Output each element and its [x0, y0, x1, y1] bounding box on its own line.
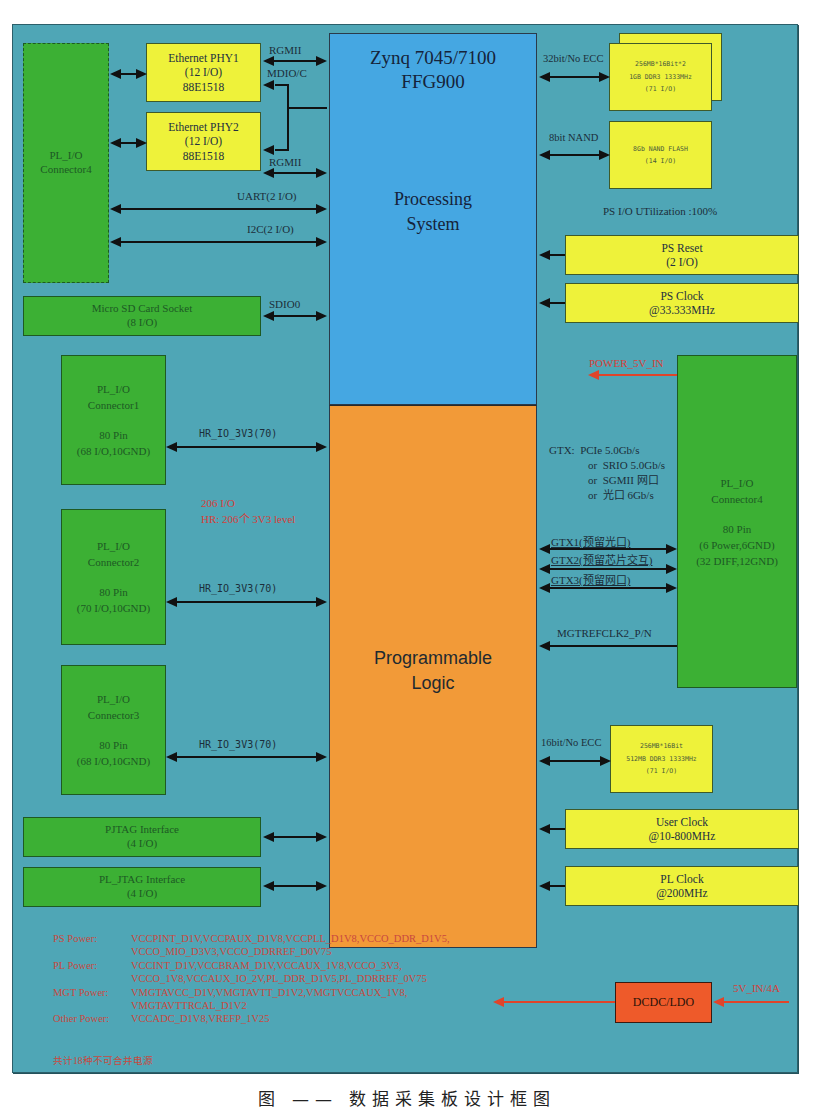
- pl-io-connector2: PL_I/O Connector2 80 Pin (70 I/O,10GND): [61, 509, 166, 645]
- mgtrefclk-label: MGTREFCLK2_P/N: [557, 627, 652, 639]
- arrow-left-icon: [539, 298, 550, 308]
- arrow-left-icon: [539, 881, 550, 891]
- connector-label: PL_I/O: [97, 381, 130, 397]
- arrow-left-icon: [166, 597, 177, 607]
- ddr-spec: 256MB*16Bit*2: [635, 58, 686, 70]
- connector-label: Connector1: [88, 397, 139, 413]
- clock-name: User Clock: [656, 815, 708, 829]
- arrow-left-icon: [539, 824, 550, 834]
- connector-pins: (6 Power,6GND): [699, 537, 774, 553]
- connector2-line: [176, 601, 321, 603]
- uart-line: [119, 208, 319, 210]
- connector-label: PL_I/O: [721, 475, 754, 491]
- arrow-left-icon: [713, 997, 724, 1007]
- phy-io: (12 I/O): [185, 134, 222, 148]
- ps-label: System: [330, 212, 536, 237]
- connector-pins: (32 DIFF,12GND): [696, 553, 778, 569]
- arrow-left-icon: [263, 311, 274, 321]
- gtx-option: or SGMII 网口: [549, 473, 665, 488]
- clock-freq: @200MHz: [656, 886, 707, 900]
- ddr-io: (71 I/O): [646, 765, 677, 777]
- dcdc-input-label: 5V_IN/4A: [733, 982, 780, 994]
- arrow-left-icon: [166, 752, 177, 762]
- connector1-link-label: HR_IO_3V3(70): [199, 428, 277, 439]
- clock-freq: @10-800MHz: [649, 829, 716, 843]
- ethernet-phy1-box: Ethernet PHY1 (12 I/O) 88E1518: [146, 43, 261, 102]
- sdio-line: [271, 315, 321, 317]
- arrow-left-icon: [263, 80, 274, 90]
- gtx2-label: GTX2(预留芯片交互): [551, 551, 652, 567]
- connector-pins: (68 I/O,10GND): [77, 443, 150, 459]
- connector-pins: 80 Pin: [99, 427, 127, 443]
- ps-clock-box: PS Clock @33.333MHz: [565, 283, 799, 323]
- gtx2-line: [547, 568, 669, 570]
- arrow-left-icon: [263, 56, 274, 66]
- connector2-link-label: HR_IO_3V3(70): [199, 583, 277, 594]
- nand-spec: 8Gb NAND FLASH: [633, 143, 688, 155]
- phy-name: Ethernet PHY1: [168, 51, 239, 65]
- clock-name: PS Clock: [660, 289, 703, 303]
- gtx-note: GTX: PCIe 5.0Gb/s or SRIO 5.0Gb/s or SGM…: [549, 443, 665, 503]
- mdio-branch-line: [287, 84, 289, 150]
- pl-label: Logic: [330, 671, 536, 696]
- mdio-label: MDIO/C: [267, 67, 307, 79]
- arrow-left-icon: [539, 583, 550, 593]
- pl-jtag-interface-box: PL_JTAG Interface (4 I/O): [23, 867, 261, 907]
- ddr-ps-box: 256MB*16Bit*2 1GB DDR3 1333MHz (71 I/O): [609, 43, 712, 111]
- pl-io-level: HR: 206个 3V3 level: [201, 511, 295, 527]
- ddr-pl-line: [547, 760, 601, 762]
- dcdc-input-line: [723, 1001, 789, 1003]
- block-diagram-board: PL_I/O Connector4 Ethernet PHY1 (12 I/O)…: [12, 24, 798, 1073]
- ps-io-utilization: PS I/O UTilization :100%: [603, 205, 717, 217]
- dcdc-ldo-box: DCDC/LDO: [615, 982, 712, 1023]
- connector-label: PL_I/O: [50, 149, 83, 163]
- arrow-left-icon: [110, 69, 121, 79]
- arrow-right-icon: [316, 311, 327, 321]
- nand-link-label: 8bit NAND: [549, 132, 598, 143]
- rgmii1-line: [271, 60, 321, 62]
- gtx-option: or 光口 6Gb/s: [549, 488, 665, 503]
- ddr-pl-box: 256MB*16Bit 512MB DDR3 1333MHz (71 I/O): [610, 725, 713, 793]
- pl-clock-box: PL Clock @200MHz: [565, 866, 799, 906]
- arrow-right-icon: [136, 138, 147, 148]
- pjtag-interface-box: PJTAG Interface (4 I/O): [23, 817, 261, 857]
- gtx-option: or SRIO 5.0Gb/s: [549, 458, 665, 473]
- mdio-ps-line: [287, 107, 327, 109]
- arrow-left-icon: [539, 72, 550, 82]
- arrow-left-icon: [539, 641, 550, 651]
- connector-pins: 80 Pin: [99, 584, 127, 600]
- sd-name: Micro SD Card Socket: [92, 302, 193, 316]
- ddr-pl-link-label: 16bit/No ECC: [541, 737, 601, 748]
- ddr-spec: 1GB DDR3 1333MHz: [629, 71, 692, 83]
- pl-io-count: 206 I/O: [201, 495, 295, 511]
- ethernet-phy2-box: Ethernet PHY2 (12 I/O) 88E1518: [146, 112, 261, 171]
- power-summary: 共计18种不可合并电源: [53, 1055, 153, 1068]
- arrow-right-icon: [316, 204, 327, 214]
- phy-io: (12 I/O): [185, 65, 222, 79]
- power-rails: VMGTAVTTRCAL_D1V2: [131, 1000, 247, 1011]
- mdio-line: [275, 84, 287, 86]
- arrow-left-icon: [539, 150, 550, 160]
- arrow-left-icon: [539, 564, 550, 574]
- power-group-label: PL Power:: [53, 959, 131, 972]
- phy-name: Ethernet PHY2: [168, 120, 239, 134]
- arrow-right-icon: [316, 752, 327, 762]
- arrow-left-icon: [110, 138, 121, 148]
- arrow-right-icon: [316, 56, 327, 66]
- chip-package: FFG900: [330, 70, 536, 94]
- connector1-line: [176, 446, 321, 448]
- arrow-right-icon: [316, 168, 327, 178]
- sd-io: (8 I/O): [127, 316, 157, 330]
- gtx-option: GTX: PCIe 5.0Gb/s: [549, 443, 665, 458]
- pl-io-note: 206 I/O HR: 206个 3V3 level: [201, 495, 295, 527]
- reset-io: (2 I/O): [666, 255, 698, 269]
- power-5v-in-label: POWER_5V_IN: [589, 357, 664, 369]
- clock-name: PL Clock: [660, 872, 703, 886]
- jtag-name: PJTAG Interface: [105, 823, 179, 837]
- arrow-right-icon: [316, 597, 327, 607]
- connector-label: PL_I/O: [97, 691, 130, 707]
- arrow-left-icon: [263, 145, 274, 155]
- arrow-right-icon: [599, 72, 610, 82]
- nand-line: [547, 154, 601, 156]
- arrow-left-icon: [263, 881, 274, 891]
